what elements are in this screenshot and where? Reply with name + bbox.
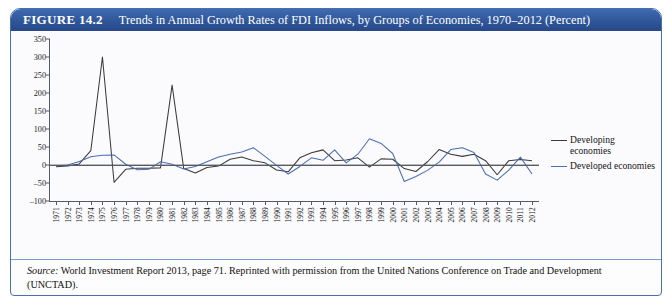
x-tick-label: 1977 bbox=[122, 207, 131, 223]
legend-item-developed: Developed economies bbox=[551, 161, 657, 172]
line-swatch-developed-icon bbox=[551, 166, 567, 167]
x-tick-mark bbox=[346, 201, 347, 205]
x-tick-mark bbox=[265, 201, 266, 205]
x-tick-mark bbox=[56, 201, 57, 205]
source-label: Source: bbox=[27, 265, 58, 276]
x-tick-mark bbox=[335, 201, 336, 205]
legend-label-developed: Developed economies bbox=[570, 161, 655, 172]
x-tick-labels: 1971197219731974197519761977197819791980… bbox=[49, 201, 539, 247]
x-tick-mark bbox=[404, 201, 405, 205]
x-tick-mark bbox=[369, 201, 370, 205]
x-tick-label: 2002 bbox=[412, 207, 421, 223]
x-tick-label: 1988 bbox=[249, 207, 258, 223]
x-tick-label: 2008 bbox=[482, 207, 491, 223]
x-tick-mark bbox=[474, 201, 475, 205]
x-tick-mark bbox=[311, 201, 312, 205]
source-divider bbox=[11, 259, 661, 260]
x-tick-label: 1985 bbox=[215, 207, 224, 223]
x-tick-label: 2012 bbox=[528, 207, 537, 223]
series-line-developed bbox=[56, 139, 532, 182]
x-tick-mark bbox=[323, 201, 324, 205]
x-tick-label: 2001 bbox=[400, 207, 409, 223]
x-tick-label: 2005 bbox=[447, 207, 456, 223]
x-tick-label: 2006 bbox=[458, 207, 467, 223]
x-tick-label: 1991 bbox=[284, 207, 293, 223]
x-axis bbox=[49, 165, 539, 166]
x-tick-mark bbox=[428, 201, 429, 205]
x-tick-label: 1996 bbox=[342, 207, 351, 223]
x-tick-mark bbox=[184, 201, 185, 205]
series-line-developing bbox=[56, 57, 532, 182]
y-tick-label: 350 bbox=[34, 35, 46, 44]
x-tick-label: 2011 bbox=[516, 207, 525, 222]
y-tick-label: 150 bbox=[34, 107, 46, 116]
series-layer bbox=[49, 39, 539, 201]
legend-label-developing: Developing economies bbox=[570, 135, 657, 157]
x-tick-label: 1974 bbox=[87, 207, 96, 223]
x-tick-mark bbox=[439, 201, 440, 205]
x-tick-mark bbox=[242, 201, 243, 205]
source-note: Source: World Investment Report 2013, pa… bbox=[27, 264, 647, 292]
x-tick-label: 1999 bbox=[377, 207, 386, 223]
x-tick-mark bbox=[137, 201, 138, 205]
x-tick-label: 1984 bbox=[203, 207, 212, 223]
x-tick-label: 1971 bbox=[52, 207, 61, 223]
x-tick-mark bbox=[451, 201, 452, 205]
x-tick-mark bbox=[497, 201, 498, 205]
x-tick-mark bbox=[358, 201, 359, 205]
y-tick-label: 200 bbox=[34, 89, 46, 98]
figure-header: FIGURE 14.2 Trends in Annual Growth Rate… bbox=[11, 9, 661, 31]
x-tick-label: 1975 bbox=[98, 207, 107, 223]
x-tick-mark bbox=[393, 201, 394, 205]
x-tick-mark bbox=[79, 201, 80, 205]
x-tick-mark bbox=[381, 201, 382, 205]
figure-title: Trends in Annual Growth Rates of FDI Inf… bbox=[119, 13, 590, 28]
x-tick-mark bbox=[532, 201, 533, 205]
x-tick-label: 1981 bbox=[168, 207, 177, 223]
x-tick-label: 1997 bbox=[354, 207, 363, 223]
x-tick-label: 1980 bbox=[156, 207, 165, 223]
x-tick-label: 1987 bbox=[238, 207, 247, 223]
x-tick-mark bbox=[277, 201, 278, 205]
x-axis-rail bbox=[49, 201, 539, 202]
x-tick-label: 1998 bbox=[365, 207, 374, 223]
x-tick-label: 2000 bbox=[389, 207, 398, 223]
x-tick-mark bbox=[230, 201, 231, 205]
y-tick-label: –50 bbox=[34, 179, 46, 188]
x-tick-mark bbox=[509, 201, 510, 205]
figure-card: FIGURE 14.2 Trends in Annual Growth Rate… bbox=[10, 8, 662, 296]
x-tick-mark bbox=[207, 201, 208, 205]
x-tick-label: 1978 bbox=[133, 207, 142, 223]
x-tick-mark bbox=[219, 201, 220, 205]
x-tick-label: 2007 bbox=[470, 207, 479, 223]
x-tick-mark bbox=[102, 201, 103, 205]
x-tick-mark bbox=[300, 201, 301, 205]
y-tick-label: 250 bbox=[34, 71, 46, 80]
x-tick-label: 1979 bbox=[145, 207, 154, 223]
line-swatch-developing-icon bbox=[551, 140, 567, 141]
y-tick-label: –100 bbox=[30, 197, 46, 206]
x-tick-label: 1976 bbox=[110, 207, 119, 223]
x-tick-label: 1995 bbox=[331, 207, 340, 223]
x-tick-label: 1983 bbox=[191, 207, 200, 223]
x-tick-label: 2003 bbox=[424, 207, 433, 223]
x-tick-label: 2009 bbox=[493, 207, 502, 223]
y-tick-label: 50 bbox=[38, 143, 46, 152]
x-tick-label: 1993 bbox=[307, 207, 316, 223]
x-tick-mark bbox=[486, 201, 487, 205]
x-tick-label: 1992 bbox=[296, 207, 305, 223]
x-tick-label: 1994 bbox=[319, 207, 328, 223]
source-text: World Investment Report 2013, page 71. R… bbox=[27, 265, 602, 290]
figure-number: FIGURE 14.2 bbox=[23, 12, 103, 28]
x-tick-mark bbox=[91, 201, 92, 205]
x-tick-label: 1986 bbox=[226, 207, 235, 223]
x-tick-mark bbox=[195, 201, 196, 205]
x-tick-mark bbox=[172, 201, 173, 205]
x-tick-mark bbox=[126, 201, 127, 205]
x-tick-mark bbox=[114, 201, 115, 205]
x-tick-mark bbox=[288, 201, 289, 205]
x-tick-label: 1982 bbox=[180, 207, 189, 223]
x-tick-label: 1973 bbox=[75, 207, 84, 223]
chart-region: –100–50050100150200250300350 19711972197… bbox=[11, 31, 662, 259]
x-tick-mark bbox=[253, 201, 254, 205]
